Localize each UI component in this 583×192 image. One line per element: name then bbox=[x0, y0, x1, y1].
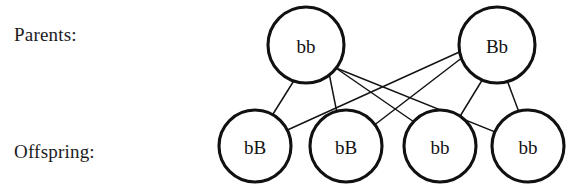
node-p1: bb bbox=[268, 7, 344, 83]
genotype-label-o3: bb bbox=[431, 137, 450, 158]
genotype-label-p2: Bb bbox=[486, 36, 508, 57]
genotype-label-o4: bb bbox=[519, 137, 538, 158]
node-o2: bB bbox=[310, 110, 382, 182]
genotype-label-o2: bB bbox=[335, 137, 357, 158]
pedigree-graph: bbBbbBbBbbbb bbox=[0, 0, 583, 192]
node-o4: bb bbox=[492, 110, 564, 182]
pedigree-diagram: Parents: Offspring: bbBbbBbBbbbb bbox=[0, 0, 583, 192]
node-o3: bb bbox=[404, 110, 476, 182]
node-p2: Bb bbox=[459, 7, 535, 83]
genotype-label-p1: bb bbox=[297, 36, 316, 57]
genotype-label-o1: bB bbox=[244, 137, 266, 158]
node-o1: bB bbox=[219, 110, 291, 182]
